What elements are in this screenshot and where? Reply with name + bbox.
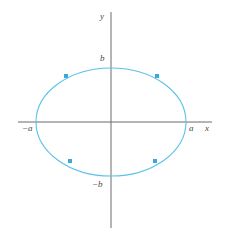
- upper-left-point: [64, 74, 68, 78]
- tick-label-b-positive: b: [100, 54, 105, 63]
- tick-label-a-positive: a: [189, 124, 194, 133]
- lower-left-point: [68, 159, 72, 163]
- y-axis-label: y: [100, 12, 104, 21]
- upper-right-point: [155, 74, 159, 78]
- lower-right-point: [153, 159, 157, 163]
- tick-label-a-negative: −a: [22, 124, 33, 133]
- tick-label-b-negative: −b: [92, 180, 103, 189]
- ellipse-figure: y x a −a b −b: [0, 0, 226, 237]
- x-axis-label: x: [205, 124, 209, 133]
- plot-canvas: [0, 0, 226, 237]
